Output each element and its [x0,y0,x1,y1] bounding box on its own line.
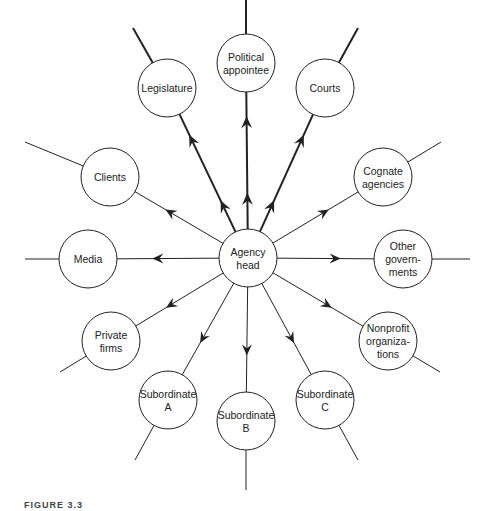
node-subordinate-a: SubordinateA [139,371,197,429]
node-legislature: Legislature [138,59,196,117]
spoke-line [273,192,358,243]
legislature-label: Legislature [141,82,193,94]
node-agency-head: Agencyhead [219,229,277,287]
arrowhead-icon [166,298,178,308]
node-subordinate-c: SubordinateC [296,371,354,429]
spoke-line [246,287,247,392]
arrowhead-icon [320,298,332,308]
edge-subordinate-a [135,283,234,460]
nonprofit-organizations-label: Nonprofit [367,322,410,334]
agency-head-label: Agency [230,246,266,258]
outer-line [408,142,441,162]
node-political-appointee: Politicalappointee [217,34,275,92]
subordinate-a-label: Subordinate [140,388,197,400]
subordinate-c-label: C [321,401,329,413]
node-private-firms: Privatefirms [82,312,140,370]
political-appointee-label: appointee [223,64,269,76]
spoke-line [273,273,363,326]
node-media: Media [59,230,117,288]
outer-line [60,356,86,372]
political-appointee-label: Political [228,51,264,63]
outer-line [339,28,358,63]
cognate-agencies-label: agencies [362,178,404,190]
node-nonprofit-organizations: Nonprofitorganiza-tions [359,312,417,370]
outer-line [413,356,440,372]
edge-other-governments [277,254,470,264]
media-label: Media [74,253,103,265]
edge-cognate-agencies [273,142,441,243]
subordinate-a-label: A [164,401,171,413]
spoke-line [260,114,313,231]
private-firms-label: firms [100,342,123,354]
spoke-line [277,258,374,259]
spoke-line [246,92,247,229]
spoke-line [136,273,223,326]
node-subordinate-b: SubordinateB [217,392,275,450]
arrowhead-icon [317,210,329,220]
figure-caption: FIGURE 3.3 [24,500,83,510]
node-clients: Clients [81,148,139,206]
subordinate-b-label: B [242,422,249,434]
nonprofit-organizations-label: organiza- [366,335,410,347]
node-courts: Courts [296,59,354,117]
agency-head-relationships-diagram: AgencyheadPoliticalappointeeLegislatureC… [0,0,493,511]
subordinate-c-label: Subordinate [297,388,354,400]
edge-media [25,254,219,264]
courts-label: Courts [310,82,341,94]
spoke-line [262,283,311,374]
spoke-line [179,114,235,232]
edge-nonprofit-organizations [273,273,440,372]
subordinate-b-label: Subordinate [218,409,275,421]
edge-subordinate-c [262,283,358,460]
other-governments-label: Other [390,240,417,252]
agency-head-label: head [236,259,260,271]
cognate-agencies-label: Cognate [363,165,403,177]
node-cognate-agencies: Cognateagencies [354,148,412,206]
arrowhead-icon [284,331,294,343]
outer-line [339,425,358,460]
spoke-line [182,283,234,374]
nonprofit-organizations-label: tions [377,348,399,360]
arrowhead-icon [165,210,177,220]
outer-line [135,425,154,460]
arrowhead-icon [200,331,210,343]
other-governments-label: govern- [385,253,421,265]
spoke-line [117,258,219,259]
outer-line [25,142,83,166]
outer-line [133,28,153,63]
spoke-line [135,192,223,244]
node-other-governments: Othergovern-ments [374,230,432,288]
edge-subordinate-b [242,287,252,490]
other-governments-label: ments [389,266,418,278]
private-firms-label: Private [95,329,128,341]
clients-label: Clients [94,171,126,183]
